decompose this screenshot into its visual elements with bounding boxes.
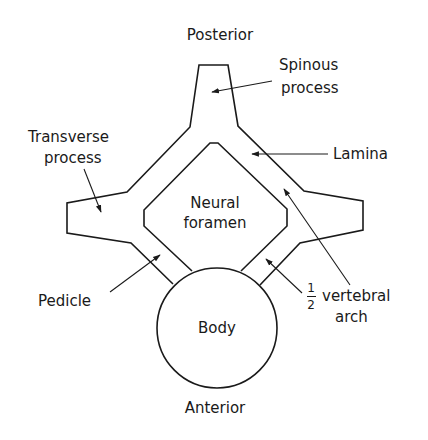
spinous-label-line1: Spinous bbox=[279, 55, 338, 75]
pedicle-label: Pedicle bbox=[38, 291, 91, 311]
posterior-label: Posterior bbox=[175, 25, 265, 45]
spinous-label-line2: process bbox=[281, 78, 339, 98]
fraction-denominator: 2 bbox=[306, 299, 316, 311]
transverse-label-line2: process bbox=[44, 148, 102, 168]
pedicle-arrow bbox=[110, 255, 160, 292]
fraction-numerator: 1 bbox=[306, 282, 316, 294]
arch-leader-arrow bbox=[284, 189, 350, 285]
outer-outline bbox=[67, 65, 363, 285]
lamina-label: Lamina bbox=[333, 144, 388, 164]
vertebral-label: vertebral bbox=[322, 286, 390, 306]
transverse-label-line1: Transverse bbox=[28, 127, 109, 147]
neural-foramen-label-line1: Neural bbox=[175, 193, 255, 213]
anterior-label: Anterior bbox=[170, 398, 260, 418]
arch-label: arch bbox=[335, 307, 368, 327]
body-label: Body bbox=[182, 318, 252, 338]
spinous-arrow bbox=[212, 81, 272, 92]
half-arch-arrow bbox=[266, 259, 302, 293]
neural-foramen-label-line2: foramen bbox=[175, 213, 255, 233]
transverse-arrow bbox=[84, 169, 101, 212]
